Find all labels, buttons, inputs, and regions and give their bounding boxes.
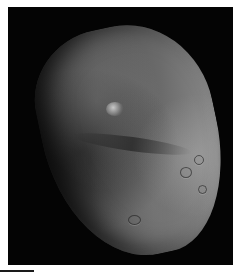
bright-hill [106, 102, 124, 116]
crater [198, 185, 207, 194]
photo-frame [8, 7, 233, 265]
crater [128, 215, 141, 225]
crater [180, 167, 192, 178]
bottom-line [0, 270, 34, 272]
crater [194, 155, 204, 165]
